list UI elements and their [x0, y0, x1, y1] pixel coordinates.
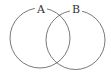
set-a-circle	[10, 8, 70, 68]
venn-diagram: A B	[0, 0, 111, 73]
venn-svg: A B	[0, 0, 111, 73]
set-b-circle	[46, 11, 105, 70]
set-a-label: A	[36, 3, 46, 16]
set-b-label: B	[72, 3, 80, 16]
